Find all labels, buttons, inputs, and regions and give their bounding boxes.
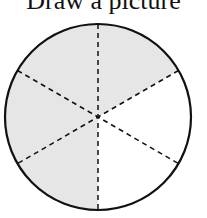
fraction-circle xyxy=(0,0,207,218)
